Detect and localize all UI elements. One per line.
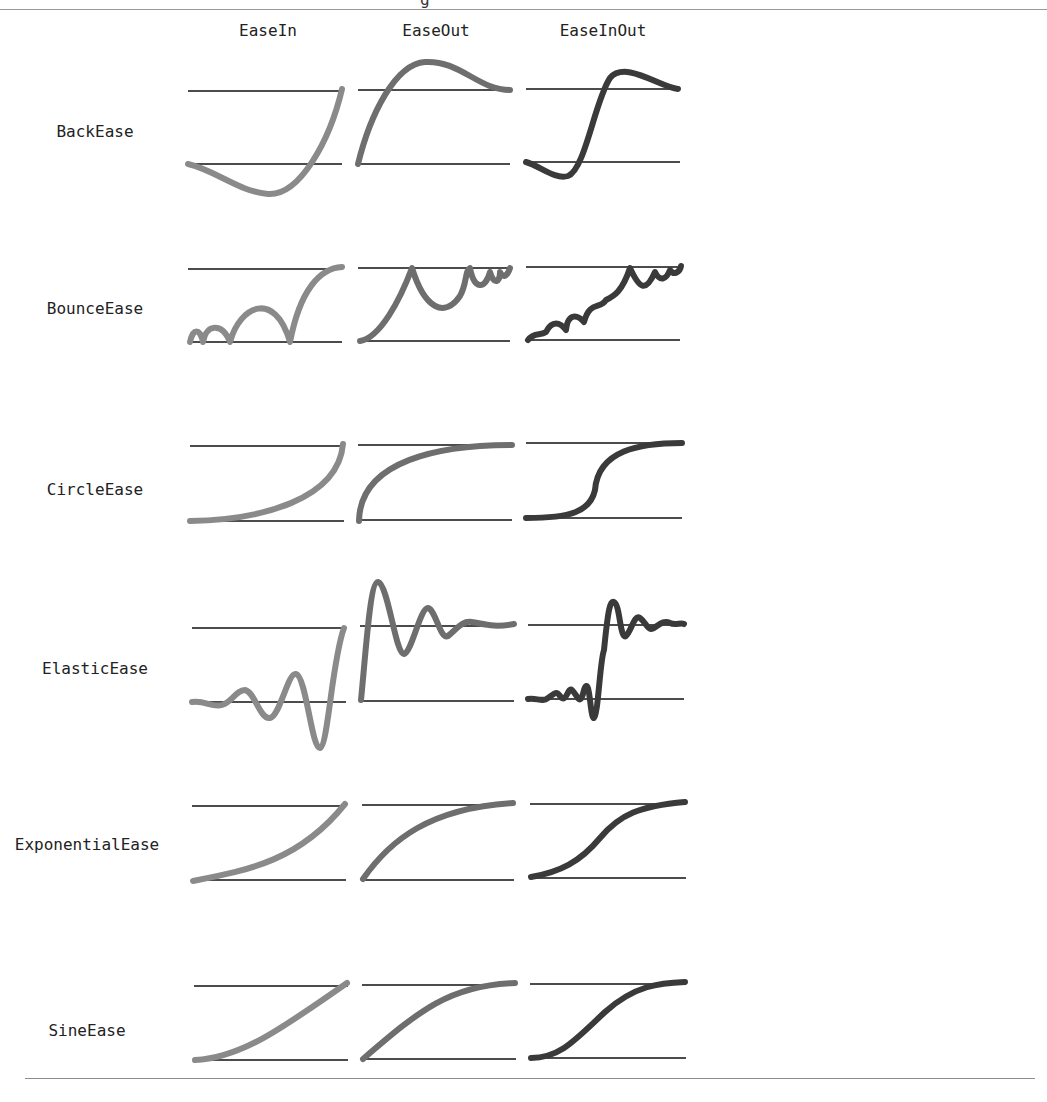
curve-sine-easeout	[363, 983, 515, 1059]
curve-sine-easeinout	[531, 982, 685, 1058]
curve-elastic-easeout	[361, 582, 514, 700]
guide-lines	[188, 89, 686, 1060]
curve-sine-easein	[195, 983, 347, 1060]
curve-circle-easeout	[359, 445, 512, 521]
curve-circle-easeinout	[526, 443, 682, 518]
curve-exponential-easeout	[363, 803, 513, 879]
curve-bounce-easein	[190, 267, 342, 342]
curve-exponential-easeinout	[531, 802, 685, 877]
curve-elastic-easein	[192, 628, 344, 748]
curve-bounce-easeout	[360, 268, 510, 341]
curve-elastic-easeinout	[528, 602, 684, 718]
curve-back-easeout	[358, 62, 510, 164]
curve-back-easein	[188, 89, 342, 194]
easing-curves-diagram	[0, 0, 1047, 1102]
curve-bounce-easeinout	[528, 266, 681, 340]
bottom-divider	[25, 1078, 1035, 1079]
curve-exponential-easein	[193, 804, 345, 881]
curve-circle-easein	[190, 444, 343, 521]
curve-back-easeinout	[526, 72, 678, 177]
